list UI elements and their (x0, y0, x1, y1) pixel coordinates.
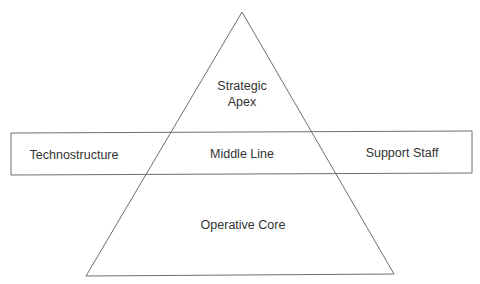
technostructure-label: Technostructure (30, 148, 119, 162)
mintzberg-diagram: Strategic Apex Technostructure Middle Li… (0, 0, 480, 284)
support-staff-label: Support Staff (366, 146, 439, 160)
pyramid-triangle (86, 12, 394, 276)
strategic-apex-label-1: Strategic (217, 79, 266, 93)
operative-core-label: Operative Core (201, 218, 286, 232)
middle-line-label: Middle Line (210, 147, 274, 161)
strategic-apex-label-2: Apex (228, 95, 257, 109)
